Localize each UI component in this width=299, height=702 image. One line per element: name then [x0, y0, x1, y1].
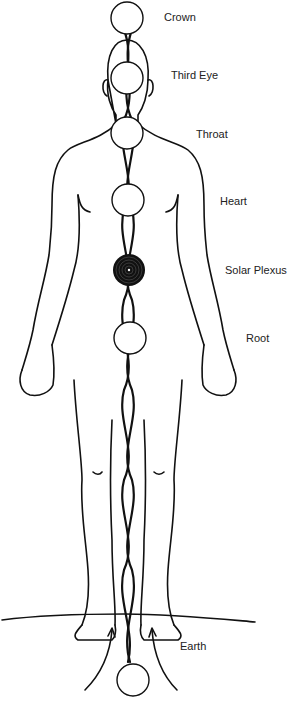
- crown-circle: [111, 2, 143, 34]
- chakra-circles: [0, 0, 299, 702]
- throat-circle: [111, 117, 143, 149]
- solar-plexus-circle: [113, 254, 145, 286]
- label-third-eye: Third Eye: [171, 69, 218, 81]
- chakra-diagram: Crown Third Eye Throat Heart Solar Plexu…: [0, 0, 299, 702]
- label-throat: Throat: [196, 128, 228, 140]
- earth-circle: [117, 664, 149, 696]
- label-crown: Crown: [164, 11, 196, 23]
- label-earth: Earth: [180, 640, 206, 652]
- third-eye-circle: [111, 62, 143, 94]
- root-circle: [114, 322, 146, 354]
- label-root: Root: [246, 332, 269, 344]
- label-solar-plexus: Solar Plexus: [225, 264, 287, 276]
- heart-circle: [112, 184, 144, 216]
- label-heart: Heart: [220, 195, 247, 207]
